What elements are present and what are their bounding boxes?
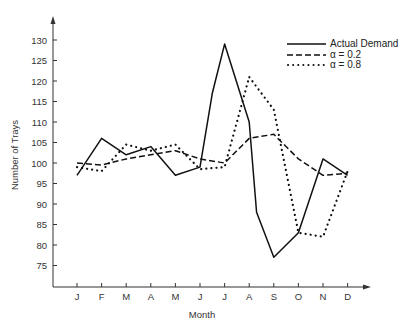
x-tick-label: J (75, 291, 80, 302)
legend: Actual Demand α = 0.2 α = 0.8 (287, 38, 398, 70)
x-tick-label: J (198, 291, 203, 302)
y-tick-label: 105 (31, 137, 47, 148)
x-tick-label: N (320, 291, 327, 302)
series-line-dashed (77, 134, 348, 175)
x-tick-label: S (271, 291, 277, 302)
y-tick-label: 130 (31, 35, 47, 46)
x-tick-label: M (122, 291, 130, 302)
y-tick-label: 75 (36, 260, 47, 271)
y-tick-label: 85 (36, 219, 47, 230)
x-tick-label: A (246, 291, 253, 302)
y-tick-label: 100 (31, 158, 47, 169)
x-axis-title: Month (189, 309, 215, 320)
y-tick-label: 90 (36, 199, 47, 210)
line-chart: 7580859095100105110115120125130 JFMAMJJA… (0, 0, 409, 329)
y-tick-label: 80 (36, 240, 47, 251)
x-tick-label: J (222, 291, 227, 302)
y-tick-label: 110 (32, 117, 47, 128)
y-tick-label: 120 (31, 76, 47, 87)
legend-label-alpha-08: α = 0.8 (330, 59, 362, 70)
y-tick-label: 95 (36, 178, 47, 189)
y-axis (51, 16, 56, 287)
legend-label-actual: Actual Demand (330, 38, 398, 49)
x-tick-label: F (99, 291, 105, 302)
x-tick-label: D (344, 291, 351, 302)
y-tick-label: 125 (31, 55, 47, 66)
y-axis-title: Number of Trays (9, 120, 20, 190)
x-tick-label: O (295, 291, 302, 302)
x-ticks: JFMAMJJASOND (75, 283, 352, 302)
series-line-dotted (77, 77, 348, 237)
x-tick-label: A (148, 291, 155, 302)
series-lines (77, 44, 348, 257)
x-tick-label: M (171, 291, 179, 302)
y-tick-label: 115 (32, 96, 47, 107)
series-line-solid (77, 44, 348, 257)
